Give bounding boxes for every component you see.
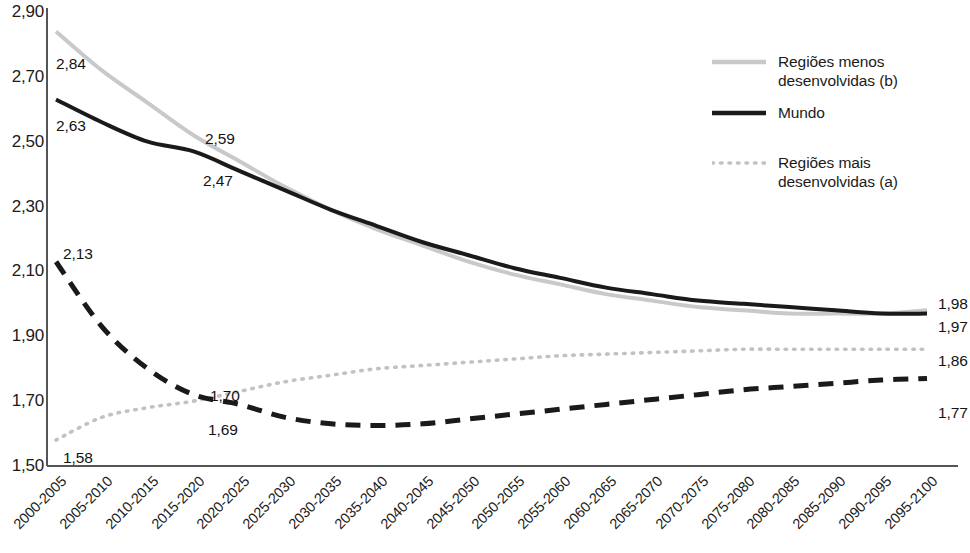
data-point-label: 1,58: [63, 449, 93, 467]
legend-swatch-1: [712, 108, 766, 118]
legend-swatch-2: [712, 158, 766, 168]
data-point-label: 1,86: [938, 352, 968, 370]
data-point-label: 1,98: [938, 295, 968, 313]
data-point-label: 2,47: [203, 172, 233, 190]
data-point-label: 1,70: [210, 387, 240, 405]
legend-swatch-0: [712, 57, 766, 67]
series-line-2: [56, 349, 927, 440]
legend-label-0: Regiões menos desenvolvidas (b): [778, 52, 898, 90]
legend-label-1: Mundo: [778, 103, 825, 122]
data-point-label: 2,13: [63, 245, 93, 263]
data-point-label: 2,59: [205, 130, 235, 148]
data-point-label: 1,97: [938, 318, 968, 336]
legend-label-2: Regiões mais desenvolvidas (a): [778, 153, 898, 191]
data-point-label: 2,63: [56, 117, 86, 135]
data-point-label: 1,69: [208, 421, 238, 439]
chart-container: 2,902,702,502,302,101,901,701,50 2000-20…: [0, 0, 970, 553]
data-point-label: 2,84: [56, 55, 86, 73]
data-point-label: 1,77: [938, 404, 968, 422]
